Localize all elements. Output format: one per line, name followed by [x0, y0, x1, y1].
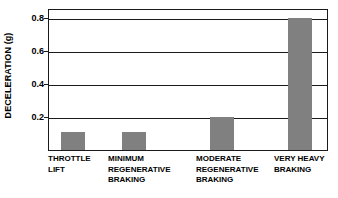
bar-chart: DECELERATION (g) 0.20.40.60.8 THROTTLE L…	[0, 0, 338, 198]
y-axis-tick-label: 0.8	[12, 14, 44, 23]
gridline	[49, 118, 327, 119]
y-axis-tick-mark	[44, 117, 49, 118]
bar	[122, 132, 146, 150]
bar	[61, 132, 85, 150]
y-axis-tick-mark	[44, 51, 49, 52]
bar	[210, 117, 234, 150]
y-axis-tick-mark	[44, 18, 49, 19]
x-axis-category-label: VERY HEAVY BRAKING	[274, 154, 338, 175]
x-axis-category-label: MODERATE REGENERATIVE BRAKING	[196, 154, 274, 186]
gridline	[49, 19, 327, 20]
x-axis-category-labels: THROTTLE LIFTMINIMUM REGENERATIVE BRAKIN…	[0, 154, 338, 198]
y-axis-tick-label: 0.6	[12, 47, 44, 56]
bar	[288, 18, 312, 150]
x-axis-category-label: MINIMUM REGENERATIVE BRAKING	[108, 154, 196, 186]
plot-area	[48, 9, 328, 151]
gridline	[49, 85, 327, 86]
gridline	[49, 52, 327, 53]
y-axis-tick-labels: 0.20.40.60.8	[10, 0, 44, 155]
y-axis-tick-label: 0.4	[12, 80, 44, 89]
x-axis-category-label: THROTTLE LIFT	[48, 154, 108, 175]
y-axis-tick-label: 0.2	[12, 113, 44, 122]
y-axis-tick-mark	[44, 84, 49, 85]
